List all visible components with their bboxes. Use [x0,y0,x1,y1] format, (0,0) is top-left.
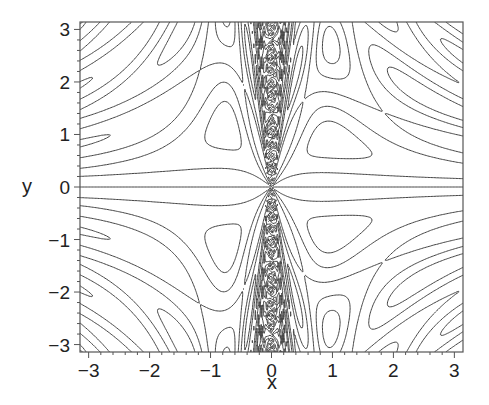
x-tick-label: −3 [78,360,100,381]
y-tick-label: 2 [59,72,70,93]
x-tick-label: −2 [139,360,161,381]
y-tick-label: 3 [59,19,70,40]
x-tick-label: 1 [327,360,338,381]
x-tick-label: −1 [200,360,222,381]
y-tick-label: 1 [59,124,70,145]
y-tick-label: 0 [59,177,70,198]
contour-lines [80,22,463,352]
y-tick-label: −1 [48,230,70,251]
y-axis-ticks: 3210−1−2−3 [48,19,80,355]
y-tick-label: −3 [48,335,70,356]
y-tick-label: −2 [48,282,70,303]
x-axis-label: x [267,371,277,393]
x-tick-label: 3 [449,360,460,381]
x-tick-label: 2 [388,360,399,381]
y-axis-label: y [22,175,32,197]
contour-line [80,22,463,352]
contour-chart: −3−2−10123 3210−1−2−3 x y [0,0,489,405]
